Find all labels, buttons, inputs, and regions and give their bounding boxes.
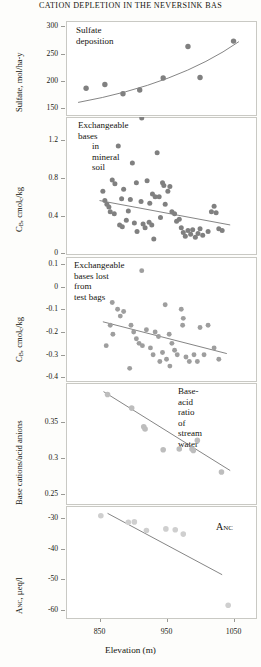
data-point [126,519,132,525]
x-tick-mark [167,619,168,622]
data-point [225,602,231,608]
x-tick-label: 950 [147,627,187,636]
x-axis-label: Elevation (m) [0,645,261,655]
x-tick-label: 1050 [214,627,254,636]
data-point [98,513,104,519]
x-tick-mark [100,619,101,622]
x-tick-label: 850 [80,627,120,636]
data-point [144,528,150,534]
data-point [172,527,178,533]
figure-page: CATION DEPLETION IN THE NEVERSINK BAS Su… [0,0,261,667]
data-point [132,519,138,525]
data-point [180,531,186,537]
data-point [163,526,169,532]
x-tick-mark [234,619,235,622]
trend-line-5 [108,513,223,574]
data-layer-5 [0,0,261,667]
